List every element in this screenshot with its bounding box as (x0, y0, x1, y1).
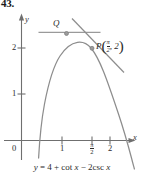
x-tick-label-1: 1 (56, 143, 68, 153)
point-q-label: Q (53, 18, 60, 28)
equation-lhs: y (34, 162, 38, 172)
right-paren: ) (119, 38, 124, 54)
y-axis-label: y (25, 14, 29, 24)
x-tick-label-2: 2 (104, 143, 116, 153)
point-p-label: P(π2, 2) (96, 38, 124, 55)
equation-csc: csc (93, 162, 105, 172)
equation-cot: cot (61, 162, 72, 172)
x-axis-label: x (133, 132, 137, 142)
equation-var2: x (106, 162, 110, 172)
x-tick-label-pi-over-2: π 2 (86, 142, 98, 156)
point-q-marker (65, 32, 69, 36)
y-axis (19, 14, 24, 161)
equation-var1: x (75, 162, 79, 172)
point-p-letter: P (96, 41, 102, 51)
x-tick-label-0: 0 (8, 143, 20, 153)
pi-over-2-fraction: π 2 (90, 142, 93, 156)
equation-equals: = 4 + (40, 162, 59, 172)
y-tick-label-1: 1 (9, 88, 19, 98)
p-coord-pi-over-2: π2 (107, 39, 110, 53)
equation-caption: y = 4 + cot x − 2csc x (0, 162, 144, 172)
graph-figure (0, 0, 144, 179)
equation-minus: − 2 (81, 162, 93, 172)
y-tick-label-2: 2 (9, 42, 19, 52)
point-p-marker (90, 46, 94, 50)
